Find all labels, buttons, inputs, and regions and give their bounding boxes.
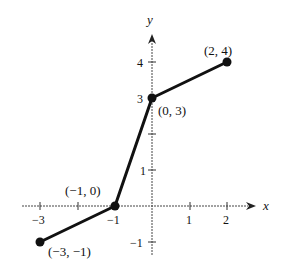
- y-tick-label: 3: [137, 92, 143, 106]
- point-label: (−3, −1): [48, 244, 91, 259]
- chart: −3 −1 1 2 4 3 1 −1 y x (−3, −1) (−1, 0) …: [0, 0, 287, 279]
- point-marker: [223, 58, 232, 67]
- x-tick-label: 1: [186, 213, 192, 227]
- x-tick-label: −1: [107, 213, 120, 227]
- point-marker: [36, 238, 45, 247]
- function-line: [40, 62, 227, 242]
- x-axis: [22, 202, 256, 210]
- x-tick-label: −3: [32, 213, 45, 227]
- point-marker: [148, 94, 157, 103]
- x-axis-label: x: [262, 198, 269, 213]
- y-axis-label: y: [145, 12, 153, 27]
- x-tick-label: 2: [223, 213, 229, 227]
- y-axis: [148, 34, 156, 255]
- point-label: (2, 4): [204, 43, 232, 58]
- point-label: (−1, 0): [65, 183, 101, 198]
- point-marker: [111, 202, 120, 211]
- point-label: (0, 3): [158, 103, 186, 118]
- y-tick-label: 1: [140, 164, 146, 178]
- y-tick-label: 4: [137, 56, 143, 70]
- y-tick-label: −1: [130, 236, 143, 250]
